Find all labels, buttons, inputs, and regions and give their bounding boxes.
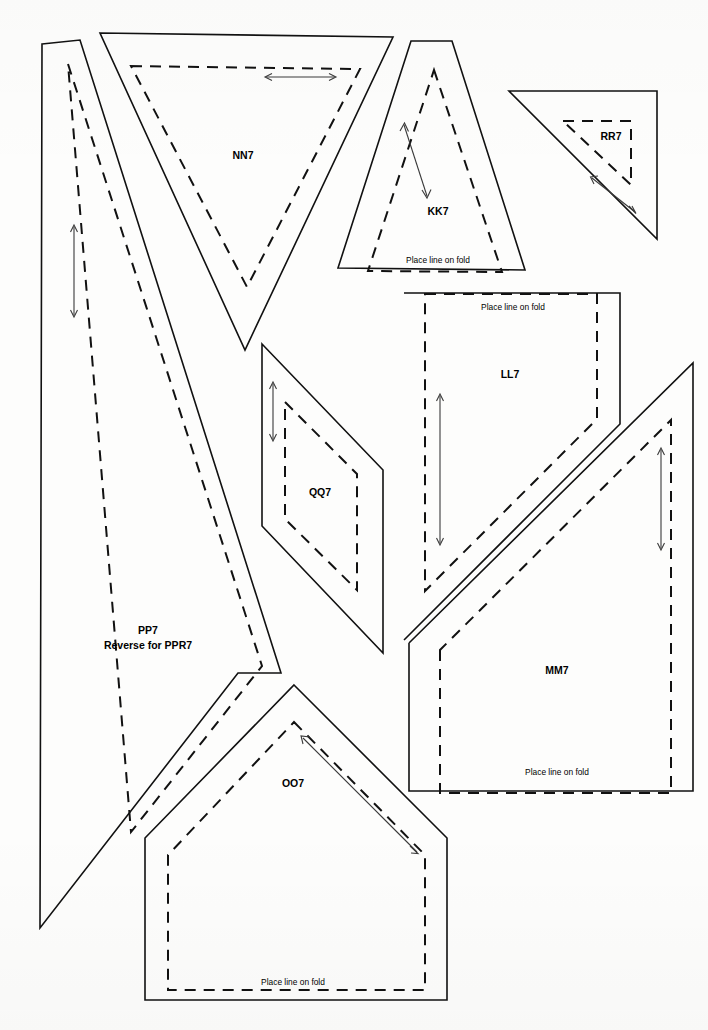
rr7-label: RR7 [600, 130, 621, 142]
nn7-grainline-icon [265, 74, 336, 81]
mm7-fold-label: Place line on fold [525, 767, 589, 777]
mm7-grainline-icon [658, 448, 665, 550]
oo7-seam-line [168, 722, 425, 990]
kk7-label: KK7 [427, 205, 448, 217]
oo7-grainline-icon [301, 736, 418, 854]
oo7-label: OO7 [282, 777, 304, 789]
pp7-label: PP7 [138, 624, 158, 636]
oo7-fold-label: Place line on fold [261, 977, 325, 987]
pattern-sheet: PP7 Reverse for PPR7 NN7 KK7 Place [0, 0, 708, 1030]
oo7-cut-line [145, 685, 447, 1000]
nn7-label: NN7 [232, 149, 253, 161]
pattern-piece-kk7: KK7 Place line on fold [338, 41, 525, 272]
rr7-cut-line [509, 91, 657, 239]
pp7-grainline-icon [71, 225, 78, 317]
pattern-piece-pp7: PP7 Reverse for PPR7 [40, 40, 281, 928]
kk7-seam-line [368, 70, 502, 272]
ll7-seam-line [425, 294, 597, 591]
mm7-seam-line [440, 420, 671, 793]
pattern-sheet-canvas: PP7 Reverse for PPR7 NN7 KK7 Place [0, 0, 708, 1030]
kk7-fold-label: Place line on fold [406, 255, 470, 265]
pp7-reverse-note: Reverse for PPR7 [104, 639, 192, 651]
pattern-piece-mm7: MM7 Place line on fold [409, 363, 693, 793]
ll7-grainline-icon [437, 394, 444, 545]
qq7-cut-line [262, 344, 383, 653]
rr7-grainline-icon [591, 176, 637, 214]
pattern-piece-rr7: RR7 [509, 91, 657, 239]
pattern-piece-oo7: OO7 Place line on fold [145, 685, 447, 1000]
ll7-fold-label: Place line on fold [481, 302, 545, 312]
qq7-label: QQ7 [309, 486, 331, 498]
pattern-piece-qq7: QQ7 [262, 344, 383, 653]
ll7-label: LL7 [501, 368, 520, 380]
pp7-seam-line [68, 64, 262, 832]
mm7-label: MM7 [545, 664, 568, 676]
mm7-cut-line [409, 363, 693, 791]
qq7-grainline-icon [270, 382, 277, 441]
